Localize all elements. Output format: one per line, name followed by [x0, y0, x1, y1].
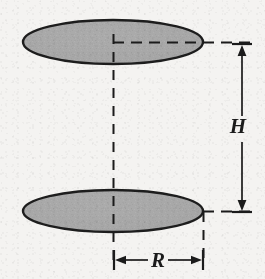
- figure-container: Cylinder radius and height dimension dia…: [0, 0, 265, 279]
- height-dimension-arrowhead-top: [238, 45, 247, 56]
- height-dimension: H: [229, 44, 252, 212]
- radius-label: R: [150, 248, 165, 272]
- radius-dimension: R: [114, 248, 203, 272]
- height-label: H: [229, 114, 247, 138]
- height-dimension-arrowhead-bottom: [238, 200, 247, 211]
- cylinder-dimension-diagram: Cylinder radius and height dimension dia…: [0, 0, 265, 279]
- radius-dimension-arrowhead-left: [115, 256, 126, 264]
- radius-dimension-arrowhead-right: [191, 256, 202, 264]
